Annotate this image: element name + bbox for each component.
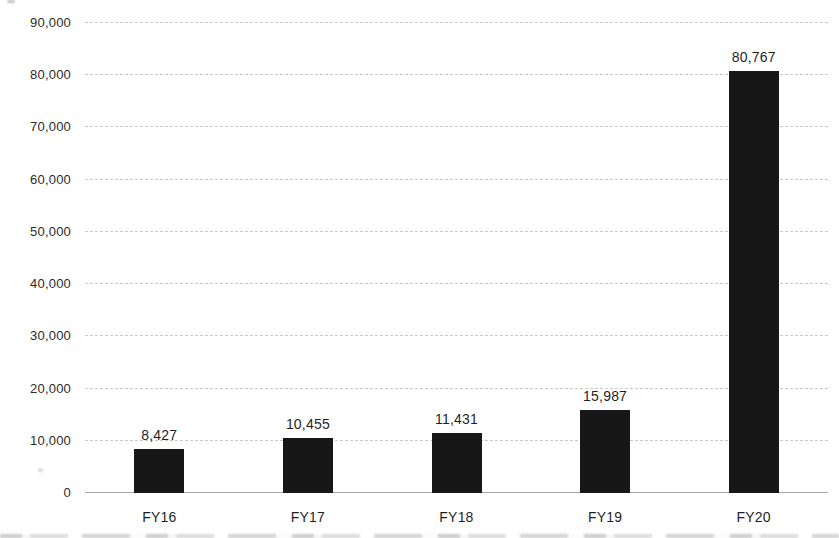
gridline [85,231,828,232]
bar-fy17 [283,438,333,493]
y-tick-label: 10,000 [0,433,71,448]
bar-value-label: 10,455 [234,416,383,432]
x-tick-label: FY17 [234,509,383,525]
x-tick-label: FY16 [85,509,234,525]
bar-value-label: 80,767 [679,49,828,65]
y-tick-label: 60,000 [0,172,71,187]
scan-smudge-top-left [7,0,15,3]
bar-value-label: 15,987 [531,388,680,404]
y-tick-label: 50,000 [0,224,71,239]
gridline [85,283,828,284]
gridline [85,335,828,336]
gridline [85,179,828,180]
scan-speck-left [38,468,43,472]
y-tick-label: 80,000 [0,67,71,82]
y-tick-label: 70,000 [0,119,71,134]
bar-chart-figure: 8,42710,45511,43115,98780,767 010,00020,… [0,0,839,538]
gridline [85,388,828,389]
bar-fy18 [432,433,482,493]
y-tick-label: 20,000 [0,381,71,396]
y-tick-label: 0 [0,485,71,500]
x-tick-label: FY18 [382,509,531,525]
x-tick-label: FY19 [531,509,680,525]
bar-fy19 [580,410,630,493]
y-tick-label: 30,000 [0,328,71,343]
bar-fy20 [729,71,779,493]
bar-value-label: 8,427 [85,427,234,443]
gridline [85,22,828,23]
gridline [85,126,828,127]
bar-fy16 [134,449,184,493]
y-tick-label: 90,000 [0,15,71,30]
bar-value-label: 11,431 [382,411,531,427]
scan-artifact-bottom-edge [0,534,839,538]
x-tick-label: FY20 [679,509,828,525]
y-tick-label: 40,000 [0,276,71,291]
plot-area: 8,42710,45511,43115,98780,767 [85,23,828,493]
gridline [85,74,828,75]
